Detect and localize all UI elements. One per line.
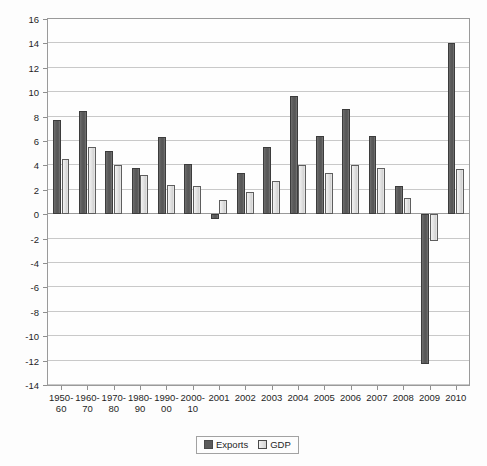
- bars-layer: [48, 19, 469, 385]
- x-tick-label: 2009: [419, 392, 440, 403]
- bar-gdp-15: [456, 169, 464, 214]
- x-tick-label-line1: 2006: [340, 392, 361, 403]
- bar-exports-15: [448, 43, 456, 214]
- x-tick-mark: [430, 386, 431, 390]
- bar-exports-12: [369, 136, 377, 214]
- x-tick-label-line2: 90: [128, 403, 152, 414]
- x-tick-label-line2: 80: [102, 403, 126, 414]
- y-tick-mark: [43, 117, 47, 118]
- x-tick-mark: [272, 386, 273, 390]
- x-tick-label: 2005: [314, 392, 335, 403]
- y-tick-label: 0: [34, 209, 39, 220]
- x-tick-mark: [324, 386, 325, 390]
- bar-gdp-10: [325, 173, 333, 214]
- x-tick-label: 2007: [366, 392, 387, 403]
- x-axis: 1950-601960-701970-801980-901990-002000-…: [48, 392, 469, 422]
- bar-gdp-1: [88, 147, 96, 214]
- y-tick-label: -12: [25, 355, 39, 366]
- y-tick-label: 14: [28, 38, 39, 49]
- x-tick-label-line1: 1960-: [75, 392, 99, 403]
- x-tick-label: 2008: [393, 392, 414, 403]
- x-tick-mark: [140, 386, 141, 390]
- x-tick-label-line1: 2004: [287, 392, 308, 403]
- x-tick-label: 1950-60: [49, 392, 73, 414]
- y-tick-mark: [43, 165, 47, 166]
- bar-exports-0: [53, 120, 61, 214]
- x-tick-label: 1990-00: [154, 392, 178, 414]
- bar-exports-1: [79, 111, 87, 215]
- y-axis: 1614121086420-2-4-6-8-10-12-14: [0, 0, 43, 466]
- x-tick-label-line1: 2001: [208, 392, 229, 403]
- bar-gdp-4: [167, 185, 175, 214]
- bar-gdp-6: [219, 200, 227, 215]
- bar-exports-6: [211, 214, 219, 219]
- legend-swatch-gdp: [258, 440, 267, 449]
- y-tick-label: -2: [31, 233, 39, 244]
- x-tick-label-line2: 70: [75, 403, 99, 414]
- y-tick-label: -6: [31, 282, 39, 293]
- x-tick-label-line1: 1990-: [154, 392, 178, 403]
- bar-exports-10: [316, 136, 324, 214]
- y-tick-label: 16: [28, 14, 39, 25]
- x-tick-mark: [377, 386, 378, 390]
- x-tick-label-line1: 2010: [445, 392, 466, 403]
- x-tick-mark: [351, 386, 352, 390]
- x-tick-label: 2004: [287, 392, 308, 403]
- x-tick-mark: [193, 386, 194, 390]
- bar-exports-3: [132, 168, 140, 214]
- x-tick-label-line2: 00: [154, 403, 178, 414]
- bar-exports-14: [421, 214, 429, 364]
- y-tick-mark: [43, 43, 47, 44]
- y-tick-mark: [43, 287, 47, 288]
- y-tick-label: 4: [34, 160, 39, 171]
- x-tick-label-line2: 10: [181, 403, 205, 414]
- y-tick-mark: [43, 214, 47, 215]
- y-tick-label: -14: [25, 380, 39, 391]
- bar-exports-11: [342, 109, 350, 214]
- legend-label-exports: Exports: [216, 439, 248, 450]
- bar-exports-5: [184, 164, 192, 214]
- bar-gdp-3: [140, 175, 148, 214]
- bar-exports-9: [290, 96, 298, 214]
- y-tick-mark: [43, 68, 47, 69]
- y-tick-mark: [43, 312, 47, 313]
- bar-gdp-12: [377, 168, 385, 214]
- bar-gdp-13: [404, 198, 412, 214]
- y-tick-mark: [43, 361, 47, 362]
- y-tick-mark: [43, 190, 47, 191]
- bar-gdp-11: [351, 165, 359, 214]
- x-tick-label-line1: 2005: [314, 392, 335, 403]
- y-tick-mark: [43, 385, 47, 386]
- y-tick-label: 12: [28, 62, 39, 73]
- x-tick-mark: [219, 386, 220, 390]
- x-tick-label: 2000-10: [181, 392, 205, 414]
- y-tick-label: 2: [34, 184, 39, 195]
- y-tick-label: -4: [31, 258, 39, 269]
- x-tick-label-line1: 2007: [366, 392, 387, 403]
- bar-gdp-14: [430, 214, 438, 241]
- y-tick-mark: [43, 141, 47, 142]
- bar-exports-13: [395, 186, 403, 214]
- bar-exports-4: [158, 137, 166, 214]
- x-tick-mark: [403, 386, 404, 390]
- x-tick-label-line2: 60: [49, 403, 73, 414]
- x-tick-mark: [298, 386, 299, 390]
- x-tick-label-line1: 1980-: [128, 392, 152, 403]
- legend-label-gdp: GDP: [270, 439, 291, 450]
- x-tick-label-line1: 2003: [261, 392, 282, 403]
- chart-legend: Exports GDP: [196, 436, 299, 454]
- x-tick-label-line1: 1950-: [49, 392, 73, 403]
- x-tick-label: 2001: [208, 392, 229, 403]
- y-tick-label: -10: [25, 331, 39, 342]
- legend-item-gdp: GDP: [258, 439, 291, 450]
- x-tick-label-line1: 1970-: [102, 392, 126, 403]
- y-tick-label: 6: [34, 136, 39, 147]
- x-tick-mark: [87, 386, 88, 390]
- bar-gdp-2: [114, 165, 122, 214]
- y-tick-mark: [43, 263, 47, 264]
- bar-gdp-5: [193, 186, 201, 214]
- bar-gdp-8: [272, 181, 280, 214]
- x-tick-label: 1980-90: [128, 392, 152, 414]
- bar-gdp-0: [62, 159, 70, 214]
- bar-gdp-7: [246, 192, 254, 214]
